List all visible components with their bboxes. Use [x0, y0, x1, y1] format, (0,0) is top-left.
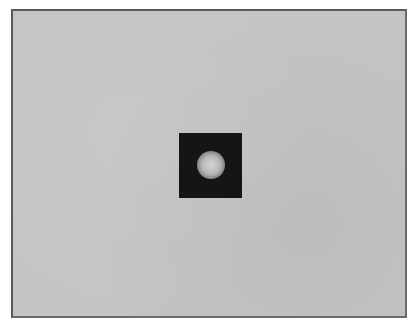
image-frame — [11, 9, 407, 318]
dark-square — [179, 133, 242, 198]
glowing-spot — [197, 151, 225, 179]
